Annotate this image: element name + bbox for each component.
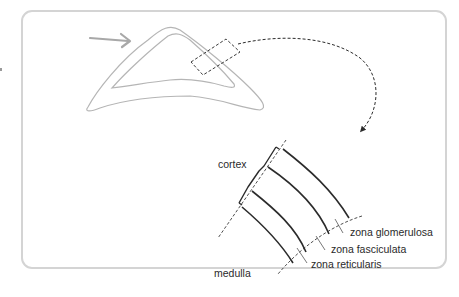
diagram-canvas: cortex medulla zona glomerulosa zona fas…	[0, 0, 459, 297]
label-zona-glomerulosa: zona glomerulosa	[350, 226, 433, 238]
edge-mark	[0, 68, 2, 71]
label-medulla: medulla	[214, 267, 251, 279]
label-cortex: cortex	[218, 158, 247, 170]
label-zona-reticularis: zona reticularis	[311, 258, 382, 270]
label-zona-fasciculata: zona fasciculata	[331, 243, 406, 255]
